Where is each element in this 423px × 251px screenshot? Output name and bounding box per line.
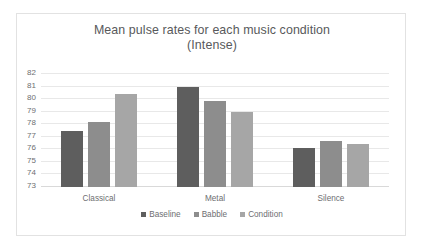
- legend-swatch-icon: [240, 212, 245, 217]
- chart-title-line-2: (Intense): [17, 38, 407, 53]
- x-axis-category-label: Metal: [157, 194, 273, 203]
- y-axis-tick-label: 82: [27, 69, 36, 77]
- y-axis-tick-label: 79: [27, 107, 36, 115]
- legend-label: Condition: [248, 210, 283, 219]
- y-axis-tick-label: 76: [27, 144, 36, 152]
- y-axis-tick-label: 78: [27, 119, 36, 127]
- x-axis-category-label: Classical: [41, 194, 157, 203]
- legend-label: Baseline: [149, 210, 180, 219]
- legend-swatch-icon: [194, 212, 199, 217]
- chart-title-line-1: Mean pulse rates for each music conditio…: [17, 23, 407, 38]
- y-axis-tick-label: 81: [27, 82, 36, 90]
- chart-legend: BaselineBabbleCondition: [17, 210, 407, 219]
- y-axis-tick-label: 74: [27, 169, 36, 177]
- x-axis-label-slot: Classical: [41, 74, 157, 187]
- chart-container: Mean pulse rates for each music conditio…: [16, 13, 406, 236]
- y-axis-tick-label: 80: [27, 94, 36, 102]
- legend-item[interactable]: Condition: [240, 210, 283, 219]
- x-axis-category-label: Silence: [273, 194, 389, 203]
- y-axis-tick-label: 73: [27, 182, 36, 190]
- legend-item[interactable]: Babble: [194, 210, 228, 219]
- x-axis-label-slot: Metal: [157, 74, 273, 187]
- y-axis-tick-label: 77: [27, 132, 36, 140]
- plot-area: 82818079787776757473 ClassicalMetalSilen…: [41, 74, 389, 187]
- chart-title: Mean pulse rates for each music conditio…: [17, 23, 407, 53]
- x-axis-label-slot: Silence: [273, 74, 389, 187]
- legend-label: Babble: [202, 210, 228, 219]
- legend-item[interactable]: Baseline: [141, 210, 180, 219]
- y-axis-tick-label: 75: [27, 157, 36, 165]
- legend-swatch-icon: [141, 212, 146, 217]
